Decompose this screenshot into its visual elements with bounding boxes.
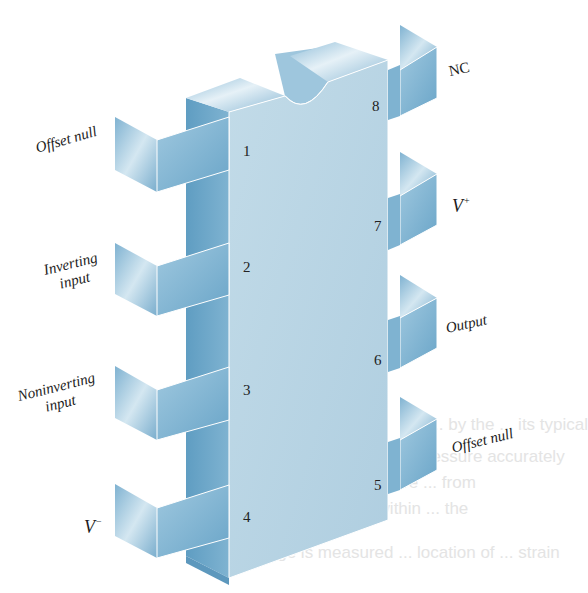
pin-number-1: 1 [243,143,251,160]
pin-5-shape [388,397,437,494]
pin-number-2: 2 [243,259,251,276]
label-superscript: + [464,195,470,206]
label-text: NC [447,59,471,79]
pin-number-6: 6 [374,352,382,369]
pin-8-shape [388,25,437,120]
pin-6-shape [388,275,437,372]
pin-number-3: 3 [243,382,251,399]
pin-number-7: 7 [374,218,382,235]
label-superscript: − [96,516,102,527]
pin-number-5: 5 [374,477,382,494]
pin-7-label: V+ [452,192,470,215]
pin-4-label: V− [84,513,102,536]
pin-number-8: 8 [372,98,380,115]
pin-number-4: 4 [243,509,251,526]
chip-front-face [229,60,388,578]
label-text: V [84,517,95,537]
label-text: V [452,196,463,216]
pin-7-shape [388,152,437,250]
